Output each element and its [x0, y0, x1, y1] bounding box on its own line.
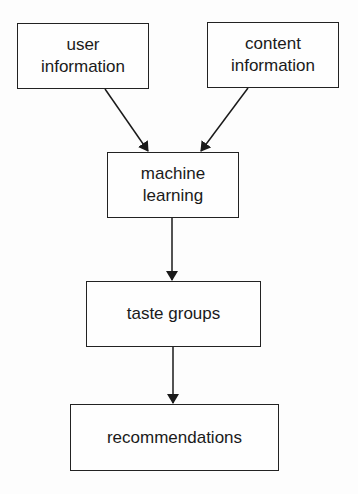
node-taste-groups: taste groups	[86, 281, 261, 347]
node-label: recommendations	[107, 427, 242, 449]
node-label: information	[41, 56, 125, 78]
node-label: machine	[141, 163, 205, 185]
node-recommendations: recommendations	[70, 404, 279, 471]
node-label: information	[231, 55, 315, 77]
node-label: content	[231, 33, 315, 55]
node-label: learning	[141, 185, 205, 207]
arrow-user-to-ml	[105, 89, 148, 151]
node-machine-learning: machine learning	[107, 152, 239, 218]
node-content-information: content information	[207, 22, 339, 88]
node-user-information: user information	[17, 23, 149, 89]
node-label: taste groups	[127, 303, 221, 325]
arrow-content-to-ml	[201, 88, 248, 151]
node-label: user	[41, 34, 125, 56]
